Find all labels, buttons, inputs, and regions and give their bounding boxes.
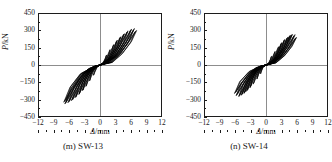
x-tick-label: −9 [216,119,224,126]
x-tick-mark [328,130,329,133]
x-tick-label: 6 [295,119,299,126]
x-tick-label: 9 [311,119,315,126]
x-tick-label: −12 [198,119,210,126]
x-tick-label: 0 [264,119,268,126]
panel-caption: (n) SW-14 [166,142,332,151]
panel-caption: (m) SW-13 [0,142,166,151]
x-tick-mark [162,130,163,133]
y-tick-label: −450 [166,113,201,120]
chart-panel-sw-13: −450−300−1500150300450−12−9−6−3036912P/k… [0,0,166,162]
x-tick-label: 6 [129,119,133,126]
y-tick-label: 0 [166,61,201,68]
y-tick-label: −300 [166,96,201,103]
x-axis-title: Δ/mm [38,128,162,136]
y-axis-title: P/kN [168,33,176,50]
y-tick-label: −150 [166,79,201,86]
x-tick-marks [204,13,328,117]
x-tick-label: 12 [158,119,165,126]
x-tick-label: 9 [145,119,149,126]
y-tick-label: −300 [0,96,35,103]
x-tick-label: 0 [98,119,102,126]
x-tick-label: −12 [32,119,44,126]
chart-panel-sw-14: −450−300−1500150300450−12−9−6−3036912P/k… [166,0,332,162]
x-tick-label: 12 [324,119,331,126]
x-tick-label: 3 [114,119,118,126]
x-tick-label: −9 [50,119,58,126]
x-tick-label: −6 [231,119,239,126]
x-tick-label: −3 [81,119,89,126]
y-tick-label: −150 [0,79,35,86]
x-tick-label: 3 [280,119,284,126]
y-tick-label: 450 [0,9,35,16]
y-tick-label: −450 [0,113,35,120]
x-tick-label: −6 [65,119,73,126]
x-axis-title: Δ/mm [204,128,328,136]
y-tick-label: 0 [0,61,35,68]
x-tick-marks [38,13,162,117]
hysteresis-figure: −450−300−1500150300450−12−9−6−3036912P/k… [0,0,332,162]
y-axis-title: P/kN [2,33,10,50]
y-tick-label: 450 [166,9,201,16]
x-tick-label: −3 [247,119,255,126]
